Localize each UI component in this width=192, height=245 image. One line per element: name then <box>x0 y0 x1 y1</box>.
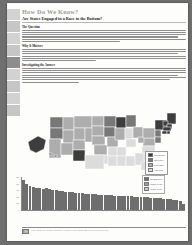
state-NE <box>92 136 105 145</box>
state-VA <box>143 138 155 146</box>
chapter-tab <box>7 81 20 92</box>
state-CT <box>162 131 167 134</box>
section-body-text <box>22 30 186 43</box>
state-ID <box>63 117 74 130</box>
chart-y-tick-label: 800 <box>16 183 19 185</box>
chapter-tab <box>7 93 20 104</box>
legend-swatch <box>148 153 153 157</box>
state-OH <box>133 127 143 138</box>
legend-item: Maximum benefit <box>144 177 163 181</box>
chart-y-tick-label: 400 <box>16 196 19 198</box>
state-IL <box>115 128 125 140</box>
legend-swatch <box>148 168 153 172</box>
legend-swatch <box>148 163 153 167</box>
state-OR <box>50 128 63 139</box>
chart-y-tick-label: 200 <box>16 202 19 204</box>
us-choropleth-map: $600 and above $450 to $599 $300 to $449… <box>22 109 186 175</box>
chapter-tab-active <box>7 57 20 68</box>
legend-swatch <box>144 182 149 186</box>
section-body-text <box>22 68 186 83</box>
page-title: How Do We Know? <box>22 8 186 15</box>
section-heading: Why It Matters <box>22 45 186 48</box>
textbook-page: How Do We Know? Are States Engaged in a … <box>7 3 188 241</box>
chapter-tab <box>7 33 20 44</box>
legend-label: National average <box>150 188 162 190</box>
chapter-tab <box>7 105 20 116</box>
state-MI <box>126 115 136 127</box>
legend-label: $300 to $449 <box>154 164 163 166</box>
state-HI <box>54 155 57 157</box>
state-MT <box>74 116 92 128</box>
section-heading: Investigating the Answer <box>22 64 186 67</box>
state-UT <box>73 140 85 150</box>
state-MD <box>155 137 161 143</box>
state-AZ <box>61 143 73 155</box>
state-RI <box>167 131 170 134</box>
state-benefit-bar-chart: 02004006008001000 AKNYCAVTNHMACTWIRIHIMN… <box>11 175 187 223</box>
page-subtitle: Are States Engaged in a Race to the Bott… <box>22 16 186 21</box>
state-IN <box>125 128 133 139</box>
legend-swatch <box>144 187 149 191</box>
legend-label: $450 to $599 <box>154 159 163 161</box>
section-why-it-matters: Why It Matters <box>22 45 186 62</box>
chart-legend: Maximum benefit Regional average Nationa… <box>142 175 166 194</box>
state-IA <box>104 127 115 137</box>
state-NV <box>63 130 74 143</box>
chart-x-labels: AKNYCAVTNHMACTWIRIHIMNWAORNJMDMEMIUTNMPA… <box>21 211 185 222</box>
state-ME <box>167 113 176 124</box>
legend-label: $600 and above <box>154 154 165 156</box>
chart-y-tick-label: 0 <box>18 209 19 211</box>
state-LA <box>108 156 117 166</box>
state-KS <box>94 145 107 155</box>
chapter-tab <box>7 69 20 80</box>
state-SD <box>92 126 104 136</box>
state-NM <box>73 150 85 161</box>
state-MA <box>163 127 171 131</box>
legend-label: Under $300 <box>154 169 163 171</box>
section-investigating-the-answer: Investigating the Answer <box>22 64 186 83</box>
state-AL <box>126 156 135 166</box>
legend-item: $450 to $599 <box>148 158 166 162</box>
state-PA <box>143 128 155 138</box>
state-HI <box>49 153 52 155</box>
legend-item: National average <box>144 187 163 191</box>
state-TX <box>85 155 104 169</box>
section-heading: The Question <box>22 26 186 29</box>
legend-item: Regional average <box>144 182 163 186</box>
chapter-tab <box>7 9 20 20</box>
chart-y-axis: 02004006008001000 <box>11 177 20 210</box>
state-AR <box>108 147 118 156</box>
state-MN <box>104 116 116 127</box>
legend-label: Maximum benefit <box>150 178 163 180</box>
state-KY <box>126 139 136 147</box>
legend-item: Under $300 <box>148 168 166 172</box>
section-the-question: The Question <box>22 26 186 43</box>
legend-item: $300 to $449 <box>148 163 166 167</box>
map-legend: $600 and above $450 to $599 $300 to $449… <box>145 151 168 175</box>
section-body-text <box>22 49 186 62</box>
chapter-tab <box>7 45 20 56</box>
page-content: How Do We Know? Are States Engaged in a … <box>22 8 186 84</box>
state-WY <box>74 128 85 140</box>
feature-header: How Do We Know? Are States Engaged in a … <box>22 8 186 23</box>
state-ND <box>92 116 104 126</box>
chapter-tab-strip <box>7 9 20 117</box>
chart-y-tick-label: 600 <box>16 189 19 191</box>
chart-y-tick-label: 1000 <box>16 176 19 178</box>
legend-swatch <box>148 158 153 162</box>
state-AK <box>28 136 46 153</box>
footer-text: PART FOUR • CHAPTER 6 • POVERTY AND WELF… <box>31 229 109 231</box>
state-NJ <box>155 130 161 137</box>
state-MS <box>117 156 126 166</box>
legend-label: Regional average <box>150 183 163 185</box>
page-footer: 190 PART FOUR • CHAPTER 6 • POVERTY AND … <box>22 227 186 234</box>
state-WA <box>50 117 63 128</box>
state-TN <box>117 147 126 156</box>
page-number: 190 <box>22 229 29 234</box>
legend-item: $600 and above <box>148 153 166 157</box>
state-WI <box>116 117 126 128</box>
legend-swatch <box>144 177 149 181</box>
chapter-tab <box>7 21 20 32</box>
